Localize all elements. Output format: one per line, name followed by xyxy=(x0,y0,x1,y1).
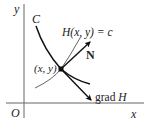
gradient-vector-arrow xyxy=(61,69,91,100)
normal-label: N xyxy=(86,48,95,62)
origin-label: O xyxy=(11,106,20,120)
gradient-label-text: grad xyxy=(95,91,118,104)
x-axis-label: x xyxy=(130,107,137,121)
y-axis-label: y xyxy=(13,2,20,16)
level-curve-label: H(x, y) = c xyxy=(61,26,113,39)
gradient-label-variable: H xyxy=(117,91,127,103)
diagram-canvas: y x O C H(x, y) = c (x, y) N grad H xyxy=(0,0,149,126)
gradient-label: grad H xyxy=(95,91,127,104)
curve-c-label: C xyxy=(32,12,41,26)
point-marker xyxy=(59,67,64,72)
point-label: (x, y) xyxy=(34,62,57,75)
